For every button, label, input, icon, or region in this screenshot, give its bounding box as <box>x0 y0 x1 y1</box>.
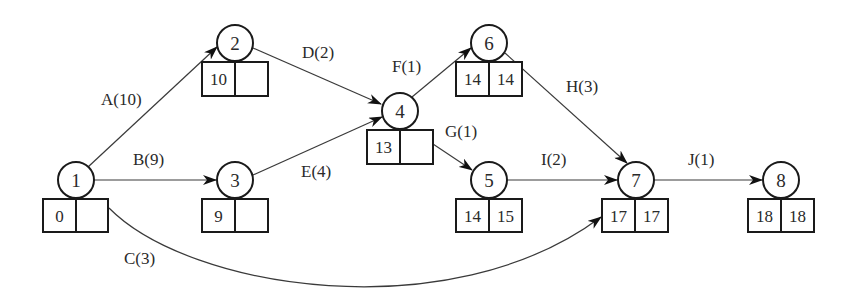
edge-c-arrow <box>109 208 601 287</box>
edge-label-j: J(1) <box>688 150 714 169</box>
node-1-es: 0 <box>55 207 64 226</box>
edges <box>88 47 762 287</box>
node-2: 10 2 <box>202 25 268 96</box>
edge-label-d: D(2) <box>302 43 334 62</box>
node-6-es: 14 <box>464 70 482 89</box>
node-1-label: 1 <box>71 170 81 191</box>
node-1: 0 1 <box>43 162 108 232</box>
node-6: 14 14 6 <box>456 25 522 96</box>
edge-label-g: G(1) <box>445 122 477 141</box>
edge-label-f: F(1) <box>392 57 421 76</box>
node-6-ef: 14 <box>497 70 515 89</box>
node-4-label: 4 <box>395 101 405 122</box>
node-7-es: 17 <box>610 207 628 226</box>
node-3-es: 9 <box>214 207 223 226</box>
node-7-label: 7 <box>631 170 641 191</box>
node-5-es: 14 <box>464 207 482 226</box>
edge-label-b: B(9) <box>133 150 164 169</box>
edge-label-e: E(4) <box>301 162 331 181</box>
edge-h-arrow <box>505 53 627 163</box>
node-8-es: 18 <box>756 207 773 226</box>
node-8-ef: 18 <box>789 207 806 226</box>
node-2-label: 2 <box>230 33 240 54</box>
node-5-ef: 15 <box>497 207 514 226</box>
edge-label-a: A(10) <box>101 90 142 109</box>
node-2-box-right <box>235 62 268 96</box>
node-5: 14 15 5 <box>456 162 522 232</box>
node-7-ef: 17 <box>643 207 661 226</box>
node-1-box-right <box>76 199 108 232</box>
edge-label-c: C(3) <box>124 249 155 268</box>
node-5-label: 5 <box>484 170 494 191</box>
node-6-label: 6 <box>484 33 494 54</box>
node-3-label: 3 <box>230 170 240 191</box>
edge-label-h: H(3) <box>566 77 598 96</box>
node-8: 18 18 8 <box>748 162 814 232</box>
edge-label-i: I(2) <box>541 150 566 169</box>
node-4-box-right <box>400 130 433 164</box>
node-2-es: 10 <box>210 70 227 89</box>
node-3-box-right <box>235 199 268 232</box>
node-4: 13 4 <box>367 93 433 164</box>
node-4-es: 13 <box>375 138 392 157</box>
node-8-label: 8 <box>776 170 786 191</box>
node-7: 17 17 7 <box>602 162 668 232</box>
edge-g-arrow <box>433 144 472 170</box>
network-diagram: A(10) B(9) C(3) D(2) E(4) F(1) G(1) H(3)… <box>0 0 852 306</box>
